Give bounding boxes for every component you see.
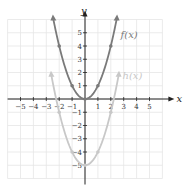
y-tick-label: 1 [78,82,82,90]
curve-arrow-icon [114,14,120,20]
x-axis-label: x [176,93,182,104]
y-tick-label: 2 [78,69,82,77]
data-point [109,110,113,114]
x-tick-label: 5 [147,103,151,111]
y-axis-label: y [80,5,87,16]
y-tick-label: 3 [78,56,82,64]
coordinate-plane: xy −5−4−3−2−112345−5−4−3−2−112345 f(x)h(… [0,0,183,186]
curve-label-f: f(x) [120,29,138,40]
x-tick-label: 3 [121,103,125,111]
data-point [109,44,113,48]
data-point [83,163,87,167]
curve-arrow-icon [50,14,56,20]
y-tick-label: −3 [72,135,82,143]
y-tick-label: 5 [78,29,82,37]
curve-labels: f(x)h(x) [120,29,143,81]
x-tick-label: 1 [96,103,100,111]
x-axis-arrow-icon [168,97,174,102]
data-point [57,44,61,48]
curve-arrow-icon [48,71,54,77]
y-tick-label: −2 [72,122,82,130]
x-tick-label: −3 [41,103,51,111]
y-tick-label: 4 [78,43,83,51]
data-point [83,97,87,101]
data-point [70,84,74,88]
data-point [57,110,61,114]
x-tick-label: −5 [15,103,25,111]
data-point [96,150,100,154]
data-point [96,84,100,88]
curve-label-h: h(x) [123,70,143,81]
x-tick-label: −4 [28,103,39,111]
y-tick-label: −1 [72,109,82,117]
curve-arrow-icon [116,71,122,77]
x-tick-label: 4 [134,103,139,111]
data-point [70,150,74,154]
